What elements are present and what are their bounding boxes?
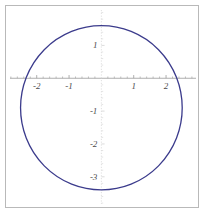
- x-tick-label: -1: [65, 82, 73, 91]
- x-tick-label: 1: [131, 82, 136, 91]
- plot-container: -2-1121-1-2-3: [0, 0, 206, 214]
- y-tick-label: -3: [90, 172, 98, 181]
- x-tick-label: -2: [33, 82, 41, 91]
- y-tick-label: -2: [90, 139, 98, 148]
- y-tick-label: -1: [90, 107, 98, 116]
- y-tick-label: 1: [93, 41, 98, 50]
- plot-graphics: [0, 0, 206, 214]
- x-tick-label: 2: [164, 82, 169, 91]
